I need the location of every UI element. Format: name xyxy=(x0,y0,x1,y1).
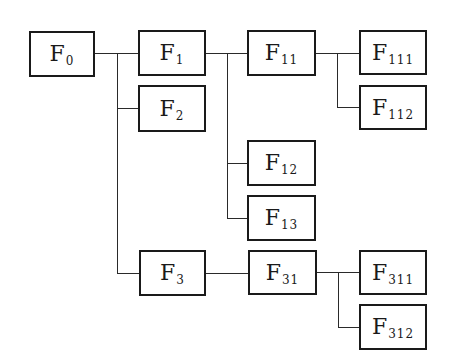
connector-f112 xyxy=(337,107,359,108)
node-subscript: 312 xyxy=(388,327,414,341)
node-subscript: 12 xyxy=(281,163,298,177)
node-f12: F12 xyxy=(247,140,316,186)
node-f312: F312 xyxy=(359,304,427,350)
node-letter: F xyxy=(266,262,281,284)
node-f11: F11 xyxy=(247,30,316,76)
node-f112: F112 xyxy=(359,85,427,130)
node-f1: F1 xyxy=(138,30,206,76)
node-subscript: 11 xyxy=(281,53,298,67)
node-letter: F xyxy=(160,98,175,120)
node-subscript: 1 xyxy=(176,53,185,67)
node-letter: F xyxy=(50,43,65,65)
node-f3: F3 xyxy=(139,250,206,296)
node-subscript: 0 xyxy=(66,54,75,68)
node-f311: F311 xyxy=(359,250,427,295)
node-subscript: 111 xyxy=(388,53,414,67)
node-f111: F111 xyxy=(359,30,427,75)
node-letter: F xyxy=(265,207,280,229)
node-subscript: 112 xyxy=(388,108,414,122)
trunk-f0 xyxy=(117,53,118,274)
node-f0: F0 xyxy=(29,31,95,77)
function-hierarchy-diagram: F0 F1 F2 F3 F11 F12 F13 F111 F112 F31 F3… xyxy=(0,0,461,361)
node-letter: F xyxy=(160,262,175,284)
trunk-f1 xyxy=(227,53,228,219)
connector-f2 xyxy=(117,108,138,109)
trunk-f11 xyxy=(337,53,338,108)
node-f2: F2 xyxy=(138,85,206,132)
trunk-f31 xyxy=(338,272,339,327)
node-letter: F xyxy=(265,152,280,174)
node-letter: F xyxy=(372,42,387,64)
node-letter: F xyxy=(160,42,175,64)
node-subscript: 3 xyxy=(176,273,185,287)
node-f31: F31 xyxy=(248,250,317,295)
node-letter: F xyxy=(372,316,387,338)
node-subscript: 311 xyxy=(388,273,414,287)
connector-f13 xyxy=(227,218,247,219)
node-subscript: 2 xyxy=(176,109,185,123)
connector-f312 xyxy=(338,327,359,328)
node-subscript: 13 xyxy=(281,218,298,232)
node-letter: F xyxy=(372,262,387,284)
node-letter: F xyxy=(372,97,387,119)
node-f13: F13 xyxy=(247,195,316,241)
connector-f3 xyxy=(117,273,139,274)
connector-f12 xyxy=(227,163,247,164)
node-letter: F xyxy=(265,42,280,64)
node-subscript: 31 xyxy=(282,273,299,287)
connector-f3-f31 xyxy=(206,273,248,274)
